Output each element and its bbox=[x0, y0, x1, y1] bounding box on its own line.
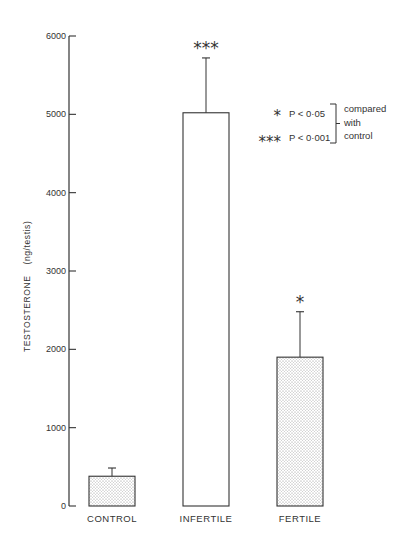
bar-rect bbox=[89, 476, 135, 506]
legend-note-line2: with bbox=[343, 117, 361, 128]
category-label: INFERTILE bbox=[180, 513, 233, 524]
legend-text-p0001: P < 0·001 bbox=[289, 132, 330, 143]
y-tick-label: 6000 bbox=[46, 31, 66, 41]
y-tick-label: 3000 bbox=[46, 266, 66, 276]
bar-rect bbox=[277, 357, 323, 506]
legend-symbol-triple: *** bbox=[259, 133, 282, 151]
bars: **** bbox=[89, 38, 323, 506]
bar-rect bbox=[183, 113, 229, 506]
y-axis-label: TESTOSTERONE (ng/testis) bbox=[22, 221, 32, 352]
y-tick-label: 0 bbox=[61, 501, 66, 511]
legend-bracket bbox=[330, 104, 340, 143]
legend-note-line3: control bbox=[344, 130, 373, 141]
category-label: FERTILE bbox=[279, 513, 321, 524]
y-tick-label: 5000 bbox=[46, 109, 66, 119]
bar-infertile: *** bbox=[183, 38, 229, 506]
y-tick-label: 2000 bbox=[46, 344, 66, 354]
legend-text-p005: P < 0·05 bbox=[289, 108, 325, 119]
bar-fertile: * bbox=[277, 292, 323, 506]
legend: * P < 0·05 *** P < 0·001 compared with c… bbox=[259, 103, 387, 151]
testosterone-bar-chart: 0100020003000400050006000 TESTOSTERONE (… bbox=[0, 0, 418, 540]
category-labels: CONTROLINFERTILEFERTILE bbox=[87, 513, 321, 524]
significance-marker: *** bbox=[193, 38, 219, 58]
legend-symbol-single: * bbox=[274, 107, 282, 125]
y-tick-label: 1000 bbox=[46, 423, 66, 433]
category-label: CONTROL bbox=[87, 513, 137, 524]
y-axis: 0100020003000400050006000 bbox=[46, 31, 76, 511]
legend-note-line1: compared bbox=[344, 103, 386, 114]
bar-control bbox=[89, 468, 135, 506]
significance-marker: * bbox=[296, 292, 305, 312]
y-tick-label: 4000 bbox=[46, 188, 66, 198]
